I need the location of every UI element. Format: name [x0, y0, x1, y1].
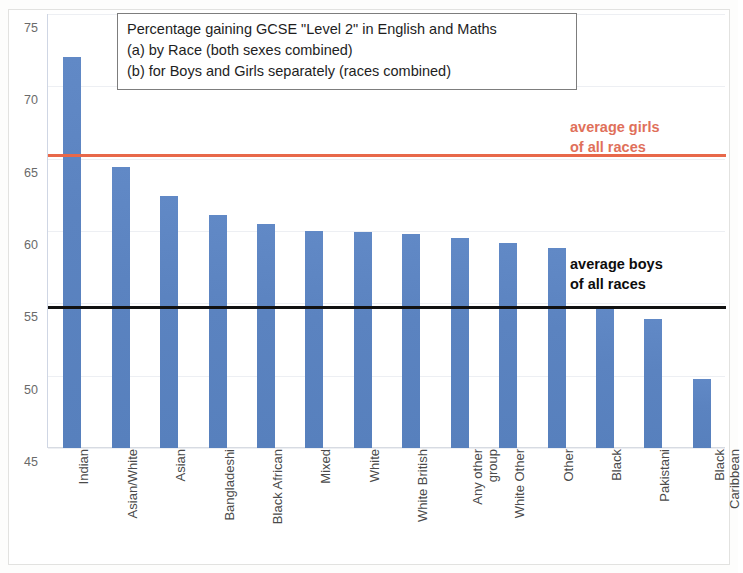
x-tick-label-white-other: White Other [513, 449, 528, 569]
bar-indian [63, 57, 81, 448]
bar-asian [160, 196, 178, 448]
x-tick-label-mixed: Mixed [319, 449, 334, 569]
x-tick-label-indian: Indian [77, 449, 92, 569]
bar-other [548, 248, 566, 448]
chart-title-line-2: (a) by Race (both sexes combined) [127, 40, 568, 61]
x-tick-label-any-other-group: Any other group [471, 449, 501, 569]
x-tick-label-bangladeshi: Bangladeshi [223, 449, 238, 569]
annotation-average-boys: average boys of all races [570, 255, 663, 294]
x-tick-label-black: Black [610, 449, 625, 569]
y-tick-label-70: 70 [24, 93, 38, 107]
bar-black-african [257, 224, 275, 448]
chart-title-box: Percentage gaining GCSE "Level 2" in Eng… [117, 13, 577, 90]
bar-any-other-group [451, 238, 469, 448]
bar-white [354, 232, 372, 448]
chart-title-line-3: (b) for Boys and Girls separately (races… [127, 61, 568, 82]
x-tick-label-pakistani: Pakistani [658, 449, 673, 569]
x-tick-label-white-british: White British [416, 449, 431, 569]
bar-white-british [402, 234, 420, 448]
bar-pakistani [644, 319, 662, 448]
x-tick-label-other: Other [562, 449, 577, 569]
bar-black [596, 306, 614, 448]
annotation-average-girls: average girls of all races [570, 118, 659, 157]
y-axis-labels: 45505560657075 [0, 14, 42, 448]
x-tick-label-white: White [368, 449, 383, 569]
bar-white-other [499, 243, 517, 448]
bar-mixed [305, 231, 323, 448]
x-tick-label-black-caribbean: Black Caribbean [713, 449, 743, 569]
y-tick-label-75: 75 [24, 21, 38, 35]
y-tick-label-65: 65 [24, 166, 38, 180]
x-axis-labels: IndianAsian/WhiteAsianBangladeshiBlack A… [47, 449, 725, 569]
bar-bangladeshi [209, 215, 227, 448]
y-tick-label-55: 55 [24, 310, 38, 324]
y-tick-label-60: 60 [24, 238, 38, 252]
x-tick-label-asian-white: Asian/White [126, 449, 141, 569]
reference-line-average-boys [48, 306, 726, 309]
y-tick-label-50: 50 [24, 383, 38, 397]
chart-title-line-1: Percentage gaining GCSE "Level 2" in Eng… [127, 19, 568, 40]
x-tick-label-black-african: Black African [271, 449, 286, 569]
x-tick-label-asian: Asian [174, 449, 189, 569]
y-tick-label-45: 45 [24, 455, 38, 469]
bar-black-caribbean [693, 379, 711, 448]
